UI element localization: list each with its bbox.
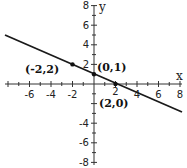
y-tick-label: -8 bbox=[79, 157, 89, 168]
point-label-m2-2: (-2,2) bbox=[25, 63, 59, 76]
x-tick-label: -4 bbox=[46, 89, 56, 100]
y-tick-label: 8 bbox=[83, 0, 89, 11]
y-tick-label: 4 bbox=[83, 39, 89, 50]
y-tick-label: 6 bbox=[83, 20, 89, 31]
x-tick-label: 2 bbox=[112, 86, 118, 97]
chart-canvas: -6 -4 -2 2 4 6 8 8 6 4 2 -4 -6 -8 y x (-… bbox=[0, 0, 187, 168]
x-tick-label: -6 bbox=[25, 89, 35, 100]
x-axis-label: x bbox=[176, 69, 183, 83]
point-m2-2 bbox=[70, 62, 74, 66]
x-tick-label: 8 bbox=[177, 89, 183, 100]
point-2-0 bbox=[113, 82, 117, 86]
point-label-2-0: (2,0) bbox=[99, 97, 129, 110]
point-label-0-1: (0,1) bbox=[97, 61, 127, 74]
x-tick-label: -2 bbox=[68, 89, 78, 100]
y-tick-label: -4 bbox=[79, 118, 89, 129]
x-tick-label: 6 bbox=[155, 89, 161, 100]
y-axis-label: y bbox=[98, 0, 106, 14]
y-tick-label: -6 bbox=[79, 137, 89, 148]
point-0-1 bbox=[92, 72, 96, 76]
